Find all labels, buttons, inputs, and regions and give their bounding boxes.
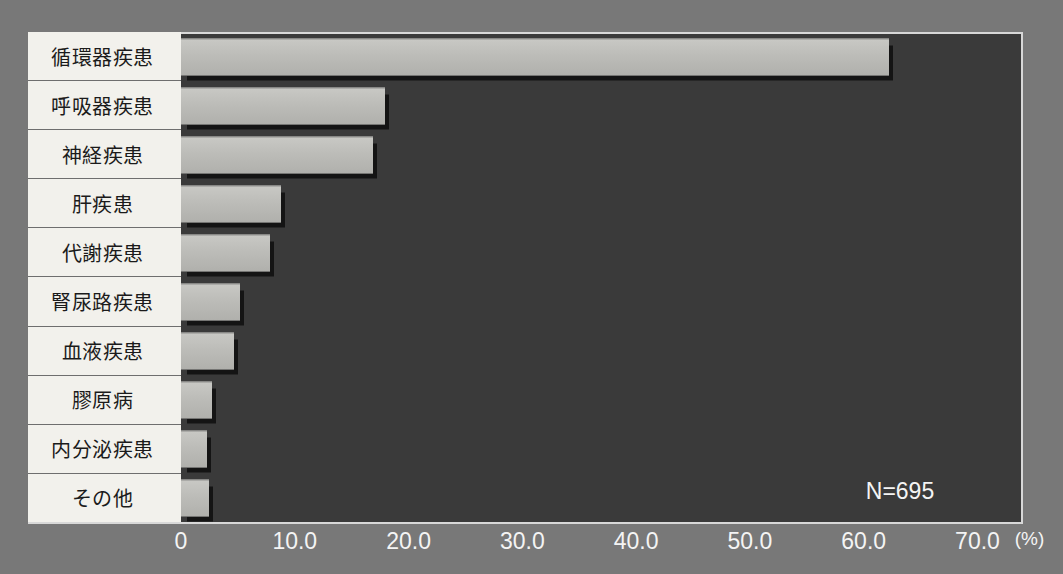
category-label: 代謝疾患 — [28, 228, 181, 277]
bars-layer — [181, 32, 1023, 522]
x-tick-label: 10.0 — [272, 528, 317, 555]
bar — [181, 381, 212, 418]
bar-row — [181, 375, 1023, 424]
bar — [181, 283, 240, 320]
bar-row — [181, 277, 1023, 326]
bar-chart: 循環器疾患 呼吸器疾患 神経疾患 肝疾患 代謝疾患 腎尿路疾患 血液疾患 膠原病… — [0, 0, 1063, 574]
category-label: 呼吸器疾患 — [28, 81, 181, 130]
bar-row — [181, 81, 1023, 130]
bar-row — [181, 424, 1023, 473]
bar-row — [181, 130, 1023, 179]
bar — [181, 38, 889, 75]
bar — [181, 430, 207, 467]
category-label: 血液疾患 — [28, 327, 181, 376]
sample-size-annotation: N=695 — [866, 478, 934, 505]
bar — [181, 332, 234, 369]
x-tick-label: 30.0 — [500, 528, 545, 555]
category-label: 腎尿路疾患 — [28, 277, 181, 326]
bar — [181, 234, 270, 271]
x-axis-ticks: 0 10.0 20.0 30.0 40.0 50.0 60.0 70.0 (%) — [0, 528, 1063, 562]
x-tick-label: 60.0 — [841, 528, 886, 555]
category-label-column: 循環器疾患 呼吸器疾患 神経疾患 肝疾患 代謝疾患 腎尿路疾患 血液疾患 膠原病… — [28, 32, 181, 522]
category-label: 循環器疾患 — [28, 32, 181, 81]
bar-row — [181, 179, 1023, 228]
x-tick-label: 50.0 — [728, 528, 773, 555]
category-label: 内分泌疾患 — [28, 425, 181, 474]
bar-row — [181, 32, 1023, 81]
category-label: 神経疾患 — [28, 130, 181, 179]
x-axis-unit-label: (%) — [1015, 528, 1045, 550]
bar-row — [181, 326, 1023, 375]
x-tick-label: 70.0 — [955, 528, 1000, 555]
bar — [181, 87, 385, 124]
bar — [181, 136, 373, 173]
category-label: 肝疾患 — [28, 179, 181, 228]
x-tick-label: 20.0 — [386, 528, 431, 555]
x-axis-line — [28, 522, 1023, 524]
x-tick-label: 40.0 — [614, 528, 659, 555]
bar — [181, 479, 209, 516]
bar — [181, 185, 281, 222]
category-label: その他 — [28, 474, 181, 522]
x-tick-label: 0 — [175, 528, 188, 555]
bar-row — [181, 228, 1023, 277]
category-label: 膠原病 — [28, 376, 181, 425]
